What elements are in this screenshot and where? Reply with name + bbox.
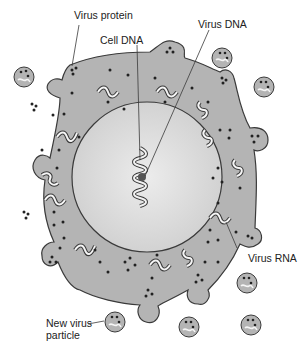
virus-particle xyxy=(212,48,232,68)
nucleus xyxy=(72,102,222,252)
label-virus-protein: Virus protein xyxy=(74,9,133,21)
label-virus-dna: Virus DNA xyxy=(198,18,247,30)
label-virus-rna: Virus RNA xyxy=(248,252,297,264)
virus-particle xyxy=(14,67,34,87)
virus-cell-diagram xyxy=(0,0,305,350)
label-cell-dna: Cell DNA xyxy=(100,34,143,46)
virus-particle xyxy=(237,273,257,293)
virus-particle xyxy=(105,312,125,332)
integration-site xyxy=(138,173,146,181)
label-new-virus-particle-line1: New virus xyxy=(46,317,92,329)
virus-particle xyxy=(241,315,261,335)
label-new-virus-particle-line2: particle xyxy=(46,329,80,341)
virus-particle xyxy=(179,317,199,337)
virus-particle xyxy=(254,77,274,97)
